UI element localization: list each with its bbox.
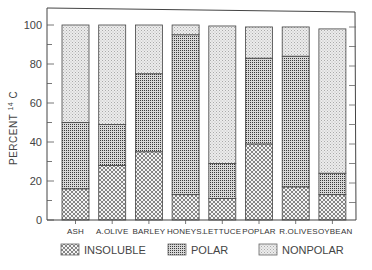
bar-soybean xyxy=(319,29,346,220)
legend-swatch-polar xyxy=(168,244,186,255)
bar-segment-nonpolar xyxy=(62,25,89,123)
bar-poplar xyxy=(246,27,273,220)
bar-segment-nonpolar xyxy=(282,27,309,56)
x-category-label: R.OLIVE xyxy=(279,227,312,236)
y-tick-label: 0 xyxy=(36,214,42,226)
bar-segment-polar xyxy=(135,74,162,152)
bar-lettuce xyxy=(209,26,236,220)
x-category-label: HONEYS. xyxy=(167,227,204,236)
legend-item-nonpolar: NONPOLAR xyxy=(259,244,344,256)
bars-group xyxy=(62,25,346,220)
bar-aolive xyxy=(99,25,126,220)
bar-segment-nonpolar xyxy=(246,27,273,58)
bar-segment-insoluble xyxy=(62,189,89,220)
legend-label: INSOLUBLE xyxy=(84,244,146,256)
x-category-label: ASH xyxy=(67,227,84,236)
plot-frame xyxy=(47,8,356,220)
bar-segment-nonpolar xyxy=(135,25,162,74)
y-tick-label: 100 xyxy=(24,19,42,31)
bar-segment-polar xyxy=(282,56,309,187)
bar-segment-nonpolar xyxy=(209,26,236,163)
bar-segment-polar xyxy=(319,173,346,194)
x-category-label: A.OLIVE xyxy=(96,227,129,236)
bar-segment-polar xyxy=(172,35,199,195)
bar-segment-insoluble xyxy=(135,152,162,220)
x-category-label: LETTUCE xyxy=(203,227,241,236)
x-category-label: BARLEY xyxy=(133,227,166,236)
bar-honeys xyxy=(172,25,199,220)
stacked-bar-chart: 020406080100 ASHA.OLIVEBARLEYHONEYS.LETT… xyxy=(0,0,372,270)
bar-segment-nonpolar xyxy=(172,25,199,35)
legend-label: NONPOLAR xyxy=(282,244,344,256)
bar-segment-nonpolar xyxy=(99,25,126,124)
legend-swatch-insoluble xyxy=(61,244,79,255)
y-axis: 020406080100 xyxy=(24,8,54,226)
x-axis: ASHA.OLIVEBARLEYHONEYS.LETTUCEPOPLARR.OL… xyxy=(47,220,356,236)
y-tick-label: 80 xyxy=(30,58,42,70)
legend-swatch-nonpolar xyxy=(259,244,277,255)
bar-segment-insoluble xyxy=(319,195,346,220)
y-tick-label: 60 xyxy=(30,97,42,109)
y-tick-label: 40 xyxy=(30,136,42,148)
bar-segment-insoluble xyxy=(172,195,199,220)
x-category-label: POPLAR xyxy=(242,227,276,236)
bar-ash xyxy=(62,25,89,220)
bar-segment-insoluble xyxy=(246,144,273,220)
y-axis-label: PERCENT 14 C xyxy=(4,91,19,165)
bar-segment-polar xyxy=(246,58,273,144)
legend: INSOLUBLEPOLARNONPOLAR xyxy=(61,244,344,256)
legend-item-insoluble: INSOLUBLE xyxy=(61,244,146,256)
bar-segment-polar xyxy=(209,163,236,198)
bar-segment-nonpolar xyxy=(319,29,346,173)
legend-item-polar: POLAR xyxy=(168,244,228,256)
bar-barley xyxy=(135,25,162,220)
x-category-label: SOYBEAN xyxy=(312,227,352,236)
y-tick-label: 20 xyxy=(30,175,42,187)
bar-segment-insoluble xyxy=(282,187,309,220)
bar-segment-polar xyxy=(99,124,126,165)
bar-segment-insoluble xyxy=(99,165,126,220)
bar-segment-insoluble xyxy=(209,199,236,220)
bar-segment-polar xyxy=(62,123,89,189)
bar-rolive xyxy=(282,27,309,220)
legend-label: POLAR xyxy=(191,244,228,256)
